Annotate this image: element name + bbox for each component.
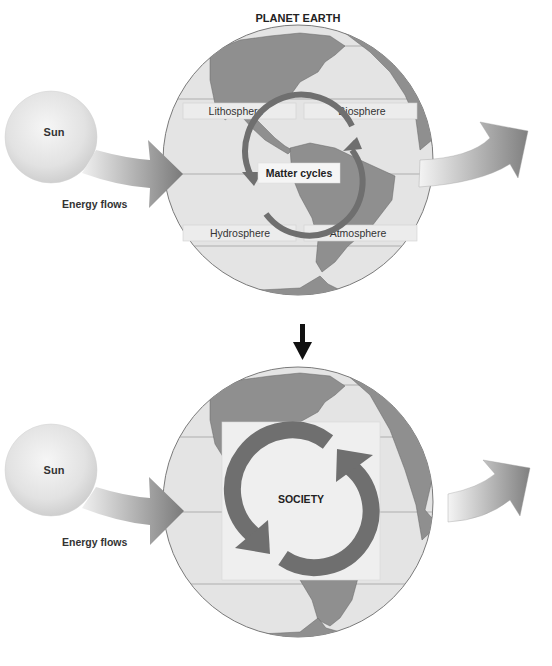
sun-label: Sun bbox=[44, 126, 65, 138]
energy-out-arrow bbox=[448, 460, 530, 522]
society-label: SOCIETY bbox=[278, 493, 324, 505]
sun: Sun bbox=[5, 91, 97, 183]
globe-earth: Lithosphere Biosphere Hydrosphere Atmosp… bbox=[150, 25, 450, 300]
sun-label: Sun bbox=[44, 464, 65, 476]
title: PLANET EARTH bbox=[256, 12, 341, 24]
energy-flows-label: Energy flows bbox=[62, 536, 128, 548]
diagram-canvas: PLANET EARTH Lithosphere Biospher bbox=[0, 0, 552, 666]
globe-society: SOCIETY bbox=[150, 367, 450, 642]
matter-cycles-label: Matter cycles bbox=[266, 167, 333, 179]
energy-out-arrow bbox=[419, 122, 528, 187]
energy-flows-label: Energy flows bbox=[62, 198, 128, 210]
sun: Sun bbox=[5, 424, 97, 516]
transition-arrow-icon bbox=[293, 324, 312, 360]
hydrosphere-label: Hydrosphere bbox=[210, 227, 270, 239]
